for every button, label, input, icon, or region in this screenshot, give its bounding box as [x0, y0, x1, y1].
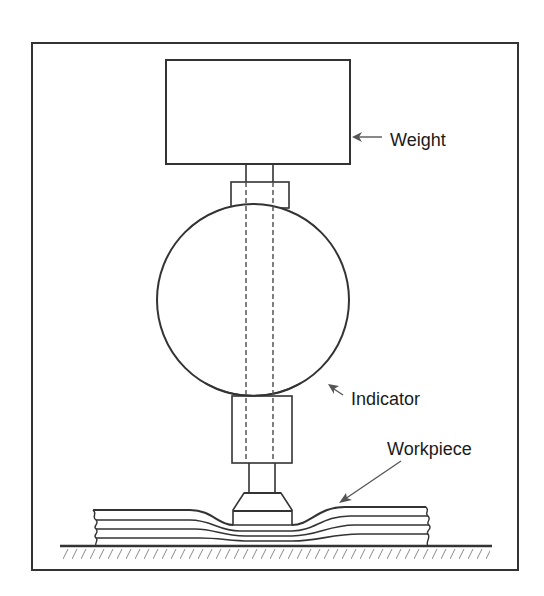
base-hatching: [62, 548, 490, 562]
weight-callout: Weight: [352, 130, 446, 150]
indicator-weight-diagram: Weight Indicator Workpiece: [0, 0, 544, 596]
arrow-upleft-icon: [328, 384, 339, 394]
indicator-label: Indicator: [351, 389, 420, 409]
workpiece-callout: Workpiece: [339, 439, 472, 503]
spindle-neck: [249, 463, 275, 493]
weight-block: [166, 60, 350, 164]
upper-shaft: [246, 164, 273, 182]
indicator-callout: Indicator: [328, 384, 420, 409]
lower-sleeve: [232, 396, 292, 463]
arrow-downleft-icon: [339, 493, 352, 503]
indicator-dial: [157, 204, 349, 396]
contact-foot: [233, 493, 292, 525]
workpiece-label: Workpiece: [387, 439, 472, 459]
weight-label: Weight: [390, 130, 446, 150]
